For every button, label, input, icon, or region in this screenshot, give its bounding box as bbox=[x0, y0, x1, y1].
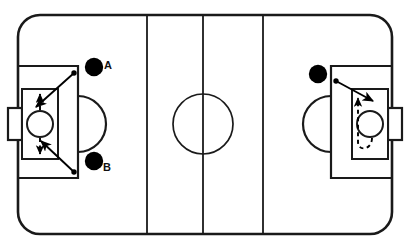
hockey-rink-diagram bbox=[0, 0, 410, 249]
player-b-marker bbox=[85, 152, 103, 170]
player-a-label: A bbox=[104, 60, 112, 71]
player-right-marker bbox=[309, 65, 327, 83]
puck-a bbox=[71, 70, 76, 75]
puck-right bbox=[333, 78, 338, 83]
puck-b bbox=[71, 169, 76, 174]
ice-surface bbox=[18, 15, 392, 234]
diagram-canvas: A B bbox=[0, 0, 410, 249]
left-goal-net bbox=[8, 108, 22, 140]
player-b-label: B bbox=[103, 162, 111, 173]
right-goalie-circle bbox=[357, 111, 383, 137]
player-a-marker bbox=[85, 58, 103, 76]
left-goalie-circle bbox=[27, 111, 53, 137]
right-goal-net bbox=[388, 108, 402, 140]
